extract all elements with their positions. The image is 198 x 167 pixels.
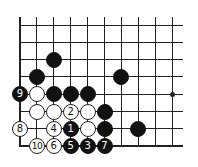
white-stone <box>80 121 96 137</box>
grid-line-horizontal <box>20 42 183 43</box>
grid-line-horizontal <box>20 25 183 26</box>
black-stone <box>97 104 113 120</box>
grid-line-horizontal <box>20 59 183 60</box>
white-stone: 10 <box>29 138 45 154</box>
black-stone <box>29 69 45 85</box>
black-stone <box>80 86 96 102</box>
white-stone <box>46 104 62 120</box>
go-board: 92841106537 <box>0 0 198 167</box>
white-stone <box>29 104 45 120</box>
black-stone: 5 <box>63 138 79 154</box>
white-stone <box>80 104 96 120</box>
white-stone: 8 <box>12 121 28 137</box>
black-stone: 3 <box>80 138 96 154</box>
white-stone <box>29 86 45 102</box>
black-stone <box>130 121 146 137</box>
black-stone <box>46 86 62 102</box>
black-stone <box>46 52 62 68</box>
black-stone: 9 <box>12 86 28 102</box>
black-stone: 1 <box>63 121 79 137</box>
black-stone: 7 <box>97 138 113 154</box>
white-stone: 6 <box>46 138 62 154</box>
black-stone <box>113 69 129 85</box>
black-stone <box>63 86 79 102</box>
white-stone: 2 <box>63 104 79 120</box>
star-point <box>170 92 175 97</box>
white-stone: 4 <box>46 121 62 137</box>
black-stone <box>97 121 113 137</box>
